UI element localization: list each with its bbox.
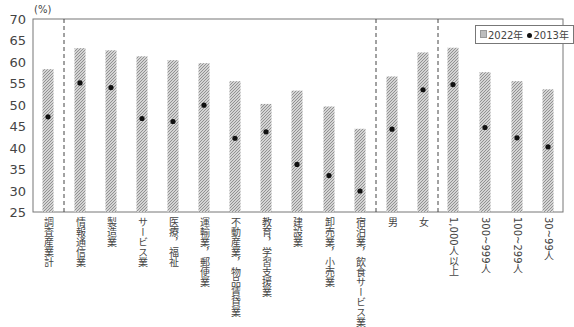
x-category-label: 300~999人 [480, 217, 491, 274]
dot-2013 [420, 87, 425, 92]
dot-2013 [170, 119, 175, 124]
dot-2013 [450, 82, 455, 87]
bar-2022 [199, 63, 210, 212]
x-category-label: 教育，学習支援業 [261, 217, 272, 297]
x-category-label: 医療，福祉 [168, 217, 179, 267]
bar-2022 [261, 104, 272, 212]
x-category-label: 1,000人以上 [448, 217, 459, 276]
bar-2022 [230, 81, 241, 212]
y-tick-label: 30 [9, 184, 26, 199]
x-category-label: 宿泊業，飲食サービス業 [355, 217, 366, 327]
dot-2013 [77, 80, 82, 85]
y-tick-label: 70 [9, 12, 26, 27]
bar-2022 [355, 129, 366, 212]
y-tick-label: 25 [9, 205, 26, 220]
x-category-label: 100~299人 [512, 217, 523, 274]
dot-2013 [294, 162, 299, 167]
y-tick-label: 65 [9, 33, 26, 48]
x-category-label: 情報通信業 [75, 217, 86, 267]
legend-swatch-2022 [480, 30, 487, 38]
y-axis-unit: (%) [34, 4, 51, 15]
bar-2022 [418, 52, 429, 212]
x-category-label: 不動産業，物品賃貸業 [230, 217, 241, 317]
x-category-label: 卸売業，小売業 [324, 217, 335, 287]
legend: 2022年2013年 [475, 25, 574, 44]
bar-2022 [543, 89, 554, 212]
dot-2013 [482, 125, 487, 130]
bar-2022 [106, 50, 117, 212]
bar-2022 [480, 72, 491, 212]
x-category-label: 建設業 [292, 217, 303, 247]
y-tick-label: 35 [9, 162, 26, 177]
x-category-label: 調査産業計 [43, 217, 54, 267]
dot-2013 [514, 135, 519, 140]
y-tick-label: 40 [9, 141, 26, 156]
bars-2022 [43, 48, 554, 212]
bar-2022 [448, 48, 459, 212]
dot-2013 [139, 116, 144, 121]
x-category-label: サービス業 [137, 217, 148, 267]
bar-2022 [387, 76, 398, 212]
group-separators [64, 19, 438, 212]
y-tick-label: 45 [9, 119, 26, 134]
bar-2022 [75, 48, 86, 212]
dot-2013 [545, 144, 550, 149]
bar-2022 [137, 56, 148, 212]
y-tick-label: 60 [9, 55, 26, 70]
dot-2013 [108, 85, 113, 90]
dot-2013 [357, 188, 362, 193]
x-category-label: 30~99人 [543, 217, 554, 261]
bar-2022 [292, 91, 303, 212]
x-category-label: 女 [418, 217, 429, 227]
bar-2022 [43, 69, 54, 212]
dot-2013 [232, 136, 237, 141]
legend-dot-2013-icon [527, 33, 532, 38]
legend-label-2013: 2013年 [533, 30, 568, 41]
y-tick-label: 50 [9, 98, 26, 113]
bar-2022 [512, 81, 523, 212]
dot-2013 [389, 127, 394, 132]
dot-2013 [326, 173, 331, 178]
y-tick-label: 55 [9, 76, 26, 91]
x-category-label: 運輸業，郵便業 [199, 217, 210, 287]
dot-2013 [263, 129, 268, 134]
bar-2022 [168, 60, 179, 212]
legend-label-2022: 2022年 [488, 30, 523, 41]
dot-2013 [45, 114, 50, 119]
dot-2013 [201, 103, 206, 108]
x-category-label: 男 [387, 217, 398, 227]
x-category-label: 製造業 [106, 217, 117, 247]
bar-2022 [324, 106, 335, 212]
y-axis-ticks: 25303540455055606570 [9, 12, 26, 220]
